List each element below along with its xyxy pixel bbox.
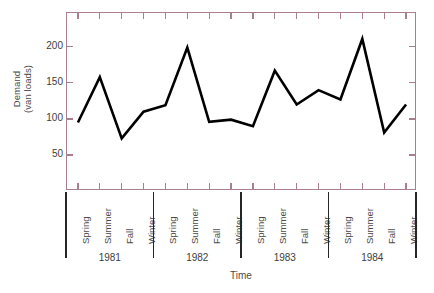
x-tick-top-15	[405, 13, 406, 19]
x-tick-top-12	[340, 13, 341, 19]
x-tick-top-1	[99, 13, 100, 19]
x-tick-top-5	[187, 13, 188, 19]
x-tick-bottom-8	[252, 183, 253, 189]
x-tick-top-14	[384, 13, 385, 19]
x-tick-top-4	[165, 13, 166, 19]
x-tick-bottom-13	[362, 183, 363, 189]
y-tick-left-200	[67, 46, 73, 47]
x-tick-bottom-7	[230, 183, 231, 189]
x-tick-bottom-1	[99, 183, 100, 189]
y-tick-label-50: 50	[33, 149, 63, 159]
demand-line-series	[67, 13, 417, 191]
x-tick-top-10	[296, 13, 297, 19]
x-tick-bottom-6	[209, 183, 210, 189]
y-tick-right-150	[409, 82, 415, 83]
x-tick-top-8	[252, 13, 253, 19]
y-tick-left-150	[67, 82, 73, 83]
x-tick-bottom-3	[143, 183, 144, 189]
y-axis-tick-labels: 50100150200	[30, 0, 63, 293]
x-tick-top-6	[209, 13, 210, 19]
x-tick-bottom-14	[384, 183, 385, 189]
x-tick-bottom-4	[165, 183, 166, 189]
x-tick-top-3	[143, 13, 144, 19]
x-tick-top-9	[274, 13, 275, 19]
x-tick-bottom-2	[121, 183, 122, 189]
year-label-1981: 1981	[70, 252, 150, 264]
y-tick-label-200: 200	[33, 41, 63, 51]
x-tick-top-11	[318, 13, 319, 19]
y-tick-label-150: 150	[33, 77, 63, 87]
x-tick-top-0	[77, 13, 78, 19]
year-label-1984: 1984	[332, 252, 412, 264]
y-tick-right-200	[409, 46, 415, 47]
year-label-1982: 1982	[157, 252, 237, 264]
x-tick-top-2	[121, 13, 122, 19]
y-tick-left-100	[67, 118, 73, 119]
x-tick-bottom-5	[187, 183, 188, 189]
series-polyline	[78, 39, 406, 138]
x-tick-top-7	[230, 13, 231, 19]
y-tick-left-50	[67, 154, 73, 155]
plot-area	[66, 12, 416, 190]
y-tick-label-100: 100	[33, 113, 63, 123]
x-tick-bottom-10	[296, 183, 297, 189]
x-axis-title: Time	[66, 270, 416, 281]
y-tick-right-100	[409, 118, 415, 119]
y-tick-right-50	[409, 154, 415, 155]
x-tick-bottom-11	[318, 183, 319, 189]
x-tick-bottom-0	[77, 183, 78, 189]
y-axis-title-line1: Demand	[11, 29, 22, 149]
x-tick-bottom-15	[405, 183, 406, 189]
year-separator-1983	[240, 192, 242, 258]
x-tick-bottom-9	[274, 183, 275, 189]
x-axis-year-groups: 1981198219831984	[66, 192, 418, 270]
chart-figure: Demand (van loads) 50100150200 SpringSum…	[0, 0, 434, 293]
year-separator-1981	[65, 192, 67, 258]
year-separator-1984	[328, 192, 330, 258]
year-separator-1982	[153, 192, 155, 258]
year-separator-end	[415, 192, 417, 258]
x-tick-top-13	[362, 13, 363, 19]
year-label-1983: 1983	[245, 252, 325, 264]
x-tick-bottom-12	[340, 183, 341, 189]
